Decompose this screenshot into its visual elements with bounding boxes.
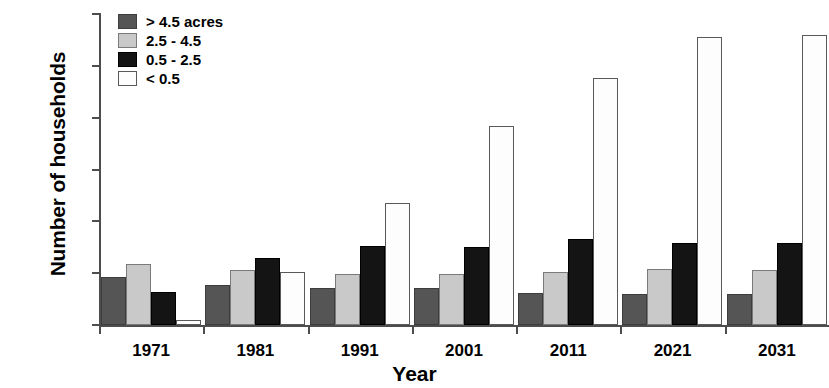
legend-item: 2.5 - 4.5	[118, 31, 288, 49]
legend-item-label: < 0.5	[146, 71, 180, 86]
x-axis-group-label: 1981	[205, 342, 305, 359]
bar	[593, 78, 618, 325]
bar	[727, 294, 752, 325]
bar	[622, 294, 647, 325]
chart-legend: > 4.5 acres2.5 - 4.50.5 - 2.5< 0.5	[118, 12, 288, 88]
x-axis-tick	[516, 325, 518, 334]
bar	[777, 243, 802, 325]
bar	[176, 320, 201, 325]
x-axis-group-label: 1971	[101, 342, 201, 359]
bar	[489, 126, 514, 325]
bar	[802, 35, 827, 325]
bar	[335, 274, 360, 325]
bar	[672, 243, 697, 325]
legend-swatch-icon	[118, 52, 137, 67]
bar	[697, 37, 722, 325]
bar-chart: Number of households 0500100015002000250…	[0, 0, 829, 388]
bar	[205, 285, 230, 325]
bar	[464, 247, 489, 325]
legend-item: > 4.5 acres	[118, 12, 288, 30]
x-axis-group-label: 1991	[310, 342, 410, 359]
bar	[280, 272, 305, 325]
legend-swatch-icon	[118, 33, 137, 48]
y-axis-tick	[92, 13, 101, 15]
bar	[255, 258, 280, 325]
bar	[360, 246, 385, 325]
y-axis-tick	[92, 220, 101, 222]
legend-item: < 0.5	[118, 69, 288, 87]
bar	[543, 272, 568, 325]
bar	[647, 269, 672, 325]
bar	[310, 288, 335, 325]
bar	[230, 270, 255, 325]
y-axis-tick	[92, 65, 101, 67]
x-axis-tick	[203, 325, 205, 334]
y-axis-tick	[92, 117, 101, 119]
bar	[568, 239, 593, 325]
legend-swatch-icon	[118, 71, 137, 86]
bar	[752, 270, 777, 325]
x-axis-tick	[308, 325, 310, 334]
bar	[439, 274, 464, 325]
y-axis-tick	[92, 272, 101, 274]
bar	[385, 203, 410, 325]
legend-item-label: 0.5 - 2.5	[146, 52, 201, 67]
bar	[126, 264, 151, 325]
x-axis-title: Year	[0, 362, 829, 386]
x-axis-tick	[412, 325, 414, 334]
y-axis-tick	[92, 169, 101, 171]
bar	[101, 277, 126, 325]
legend-item-label: 2.5 - 4.5	[146, 33, 201, 48]
bar	[414, 288, 439, 325]
x-axis-tick	[725, 325, 727, 334]
legend-swatch-icon	[118, 14, 137, 29]
x-axis-tick	[620, 325, 622, 334]
x-axis-group-label: 2021	[623, 342, 723, 359]
y-axis-title: Number of households	[46, 14, 70, 314]
bar	[151, 292, 176, 325]
legend-item: 0.5 - 2.5	[118, 50, 288, 68]
bar	[518, 293, 543, 325]
x-axis-group-label: 2011	[518, 342, 618, 359]
x-axis-group-label: 2031	[727, 342, 827, 359]
legend-item-label: > 4.5 acres	[146, 14, 223, 29]
x-axis-group-label: 2001	[414, 342, 514, 359]
x-axis-tick	[99, 325, 101, 334]
x-axis-line	[99, 325, 829, 327]
